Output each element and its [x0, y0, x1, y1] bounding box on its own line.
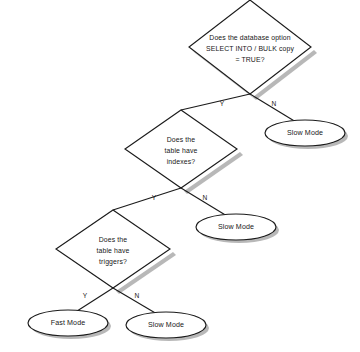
- branch-label-database-option-no: N: [272, 100, 277, 107]
- decision-table-indexes-line-2: table have: [165, 147, 198, 154]
- decision-database-option-line-3: = TRUE?: [235, 56, 264, 63]
- terminal-slow-mode-1-label: Slow Mode: [287, 129, 323, 137]
- terminal-fast-mode[interactable]: Fast Mode: [28, 310, 108, 336]
- branch-label-table-triggers-no: N: [135, 292, 140, 299]
- terminal-slow-mode-2[interactable]: Slow Mode: [196, 214, 276, 240]
- flowchart-canvas: Does the database option SELECT INTO / B…: [0, 0, 360, 352]
- flowchart-svg: Does the database option SELECT INTO / B…: [0, 0, 360, 352]
- connector-table-indexes-yes: [113, 188, 181, 210]
- connector-table-triggers-yes: [74, 288, 113, 313]
- connector-table-indexes-no: [181, 188, 227, 216]
- decision-database-option[interactable]: Does the database option SELECT INTO / B…: [189, 0, 311, 94]
- terminal-slow-mode-2-label: Slow Mode: [218, 223, 254, 231]
- decision-table-triggers-line-3: triggers?: [99, 258, 127, 266]
- decision-table-indexes[interactable]: Does the table have indexes?: [125, 110, 237, 188]
- decision-table-triggers-line-1: Does the: [99, 236, 128, 243]
- terminal-slow-mode-1[interactable]: Slow Mode: [265, 120, 345, 146]
- branch-label-database-option-yes: Y: [220, 100, 225, 107]
- shadow-layer: [31, 50, 348, 341]
- decision-table-triggers-line-2: table have: [97, 247, 130, 254]
- branch-label-table-triggers-yes: Y: [83, 292, 88, 299]
- decision-table-indexes-line-1: Does the: [167, 136, 196, 143]
- terminal-slow-mode-3-label: Slow Mode: [148, 321, 184, 329]
- connector-database-option-no: [250, 94, 296, 122]
- branch-label-table-indexes-no: N: [203, 194, 208, 201]
- connector-database-option-yes: [181, 94, 250, 110]
- decision-database-option-line-1: Does the database option: [209, 34, 290, 42]
- decision-table-triggers[interactable]: Does the table have triggers?: [56, 210, 170, 288]
- decision-table-indexes-line-3: indexes?: [167, 158, 196, 165]
- terminal-slow-mode-3[interactable]: Slow Mode: [126, 312, 206, 338]
- branch-label-table-indexes-yes: Y: [152, 194, 157, 201]
- terminal-fast-mode-label: Fast Mode: [51, 319, 86, 327]
- decision-database-option-line-2: SELECT INTO / BULK copy: [206, 45, 294, 53]
